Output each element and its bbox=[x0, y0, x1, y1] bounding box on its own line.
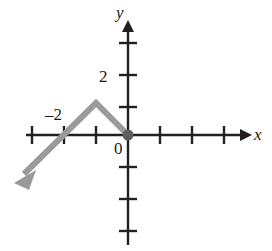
x-tick-label-negative-2: –2 bbox=[45, 106, 62, 123]
coordinate-plane-svg bbox=[0, 0, 272, 251]
x-axis-label: x bbox=[254, 126, 262, 143]
y-axis-label: y bbox=[116, 4, 124, 21]
function-ray-polyline bbox=[24, 103, 128, 174]
origin-label: 0 bbox=[114, 140, 123, 157]
graph-figure: y x 2 –2 0 bbox=[0, 0, 272, 251]
origin-endpoint-dot bbox=[123, 130, 134, 141]
x-axis-arrowhead bbox=[240, 129, 252, 141]
axes-group bbox=[26, 20, 252, 245]
y-tick-label-2: 2 bbox=[99, 68, 108, 85]
